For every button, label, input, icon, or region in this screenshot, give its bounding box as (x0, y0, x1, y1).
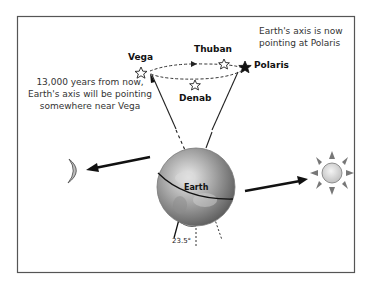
diagram-border-box (18, 17, 178, 131)
drawing (0, 0, 380, 286)
box (18, 17, 178, 131)
